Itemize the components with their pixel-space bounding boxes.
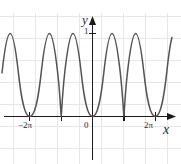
- x-tick-label-2pi: 2π: [144, 121, 153, 130]
- y-axis: [89, 16, 96, 160]
- origin-label: 0: [84, 121, 89, 130]
- x-tick-label-neg-2pi: −2π: [18, 121, 32, 130]
- function-graph-figure: y x 1 0 −2π 2π: [0, 0, 181, 164]
- y-tick-label-1: 1: [84, 27, 89, 36]
- x-axis-label: x: [163, 123, 169, 137]
- y-axis-label: y: [82, 13, 88, 26]
- grid-lines: [0, 13, 181, 164]
- plot-canvas: [0, 0, 181, 164]
